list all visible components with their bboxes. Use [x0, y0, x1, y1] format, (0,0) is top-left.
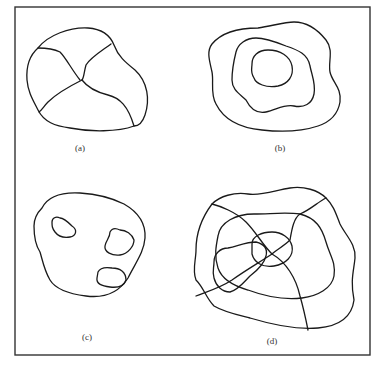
figure-frame	[15, 7, 370, 355]
partition-line-3	[39, 80, 82, 112]
overlay-partition-2	[272, 198, 326, 254]
partition-line-2	[82, 44, 111, 80]
panel-a: (a)	[27, 28, 148, 153]
panel-label-c: (c)	[82, 332, 92, 342]
hatched-island-2	[105, 229, 134, 255]
contour-outer	[209, 22, 340, 131]
panel-c: (c)	[34, 193, 145, 342]
region-outline	[34, 193, 145, 297]
overlay-hatched-patch	[213, 242, 266, 292]
hatched-island-3	[97, 268, 126, 288]
panel-label-b: (b)	[275, 143, 286, 153]
panel-label-a: (a)	[75, 143, 85, 153]
panel-label-d: (d)	[267, 336, 278, 346]
panel-d: (d)	[194, 187, 355, 346]
figure-canvas: (a) (b) (c) (d)	[0, 0, 384, 366]
panel-b: (b)	[209, 22, 340, 153]
contour-inner	[252, 50, 293, 87]
partition-line-4	[82, 80, 134, 126]
partition-line-1	[38, 48, 80, 80]
hatched-island-1	[52, 217, 76, 237]
contour-middle	[232, 38, 315, 112]
overlay-outer-region	[194, 187, 355, 328]
